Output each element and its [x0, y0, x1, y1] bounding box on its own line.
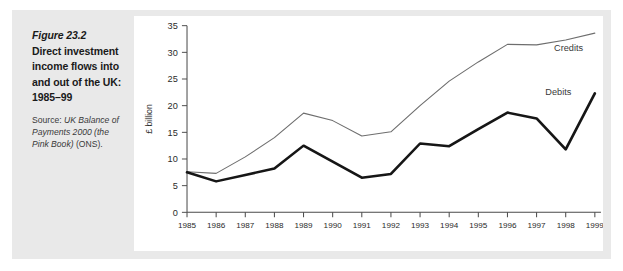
caption-title: Figure 23.2 Direct investment income flo…: [32, 28, 126, 106]
plot-area: 05101520253035 1985198619871988198919901…: [134, 16, 603, 251]
y-tick-label: 15: [168, 128, 178, 138]
x-tick-label: 1992: [382, 221, 401, 230]
x-tick-label: 1998: [557, 221, 576, 230]
series-labels: CreditsDebits: [545, 43, 583, 96]
y-axis-title: £ billion: [144, 104, 154, 134]
source-label: Source:: [32, 115, 62, 125]
figure-panel: Figure 23.2 Direct investment income flo…: [12, 10, 611, 259]
x-tick-label: 1986: [207, 221, 226, 230]
y-tick-label: 20: [168, 101, 178, 111]
caption-title-line-3: and out of the UK:: [32, 76, 121, 88]
caption-title-line-4: 1985–99: [32, 91, 72, 103]
caption-source: Source: UK Balance of Payments 2000 (the…: [32, 114, 126, 151]
x-tick-label: 1993: [411, 221, 430, 230]
y-tick-label: 30: [168, 48, 178, 58]
series-label-debits: Debits: [545, 87, 572, 97]
source-suffix: (ONS).: [76, 139, 103, 149]
figure-number: Figure 23.2: [32, 29, 86, 41]
caption-title-line-2: income flows into: [32, 60, 119, 72]
y-tick-label: 5: [173, 181, 178, 191]
line-chart: 05101520253035 1985198619871988198919901…: [134, 16, 603, 251]
x-tick-label: 1995: [469, 221, 488, 230]
y-tick-label: 35: [168, 21, 178, 31]
figure-container: Figure 23.2 Direct investment income flo…: [0, 0, 623, 271]
series-label-credits: Credits: [554, 43, 584, 53]
y-axis: 05101520253035: [168, 21, 187, 217]
series-line-credits: [187, 33, 595, 173]
series-line-debits: [187, 93, 595, 181]
y-tick-label: 25: [168, 75, 178, 85]
y-tick-label: 10: [168, 154, 178, 164]
x-tick-label: 1997: [528, 221, 547, 230]
x-tick-label: 1988: [265, 221, 284, 230]
x-tick-label: 1999: [586, 221, 603, 230]
caption-title-line-1: Direct investment: [32, 45, 118, 57]
x-tick-label: 1985: [178, 221, 197, 230]
x-tick-label: 1990: [324, 221, 343, 230]
x-axis: 1985198619871988198919901991199219931994…: [178, 212, 603, 229]
data-series-group: [187, 33, 595, 181]
x-tick-label: 1996: [498, 221, 517, 230]
figure-caption: Figure 23.2 Direct investment income flo…: [12, 10, 134, 259]
x-tick-label: 1991: [353, 221, 372, 230]
x-tick-label: 1987: [236, 221, 255, 230]
x-tick-label: 1989: [294, 221, 313, 230]
x-tick-label: 1994: [440, 221, 459, 230]
y-tick-label: 0: [173, 208, 178, 218]
